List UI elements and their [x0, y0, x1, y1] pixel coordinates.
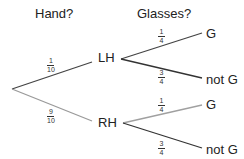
prob-den: 10: [47, 66, 55, 73]
prob-num: 9: [49, 108, 53, 115]
node-rh: RH: [98, 115, 117, 130]
node-lh-notg: not G: [206, 72, 238, 87]
prob-rh-notg: 3 4: [158, 140, 165, 156]
prob-den: 4: [160, 149, 164, 156]
prob-den: 4: [160, 78, 164, 85]
prob-num: 3: [160, 140, 164, 147]
prob-num: 1: [49, 57, 53, 64]
header-hand: Hand?: [35, 6, 73, 21]
prob-lh-notg: 3 4: [158, 69, 165, 85]
node-rh-notg: not G: [206, 142, 238, 157]
prob-root-rh: 9 10: [47, 108, 55, 124]
header-glasses: Glasses?: [137, 6, 191, 21]
prob-den: 4: [160, 37, 164, 44]
prob-num: 3: [160, 69, 164, 76]
prob-den: 4: [160, 106, 164, 113]
prob-num: 1: [160, 97, 164, 104]
node-lh-g: G: [206, 26, 216, 41]
prob-root-lh: 1 10: [47, 57, 55, 73]
prob-num: 1: [160, 28, 164, 35]
node-lh: LH: [98, 50, 115, 65]
prob-lh-g: 1 4: [158, 28, 165, 44]
node-rh-g: G: [206, 97, 216, 112]
prob-den: 10: [47, 117, 55, 124]
prob-rh-g: 1 4: [158, 97, 165, 113]
